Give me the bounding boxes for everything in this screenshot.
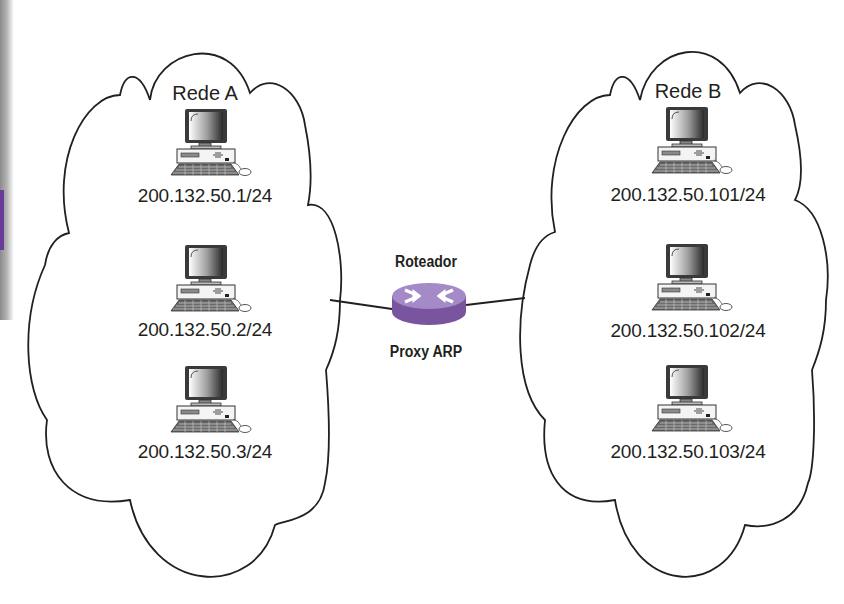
- router-subtitle: Proxy ARP: [390, 343, 462, 361]
- network-title-rede-a: Rede A: [172, 82, 238, 105]
- desktop-computer-icon: [652, 365, 732, 432]
- host-ip-label: 200.132.50.3/24: [138, 441, 272, 463]
- router-title: Roteador: [395, 253, 457, 271]
- desktop-computer-icon: [652, 107, 732, 174]
- host-ip-label: 200.132.50.102/24: [610, 320, 765, 342]
- desktop-computer-icon: [171, 109, 251, 176]
- host-ip-label: 200.132.50.1/24: [138, 185, 272, 207]
- host-ip-label: 200.132.50.103/24: [610, 441, 765, 463]
- router-icon: [392, 283, 466, 325]
- host-ip-label: 200.132.50.101/24: [610, 184, 765, 206]
- link-router-rede-b: [466, 298, 525, 305]
- desktop-computer-icon: [652, 244, 732, 311]
- network-title-rede-b: Rede B: [655, 80, 722, 103]
- desktop-computer-icon: [171, 245, 251, 312]
- desktop-computer-icon: [171, 366, 251, 433]
- host-ip-label: 200.132.50.2/24: [138, 319, 272, 341]
- cloud-rede-a: [28, 54, 341, 577]
